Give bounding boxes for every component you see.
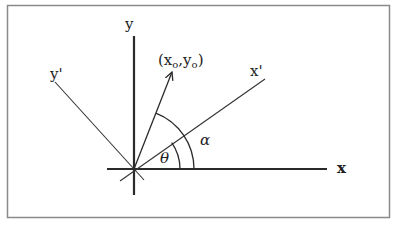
x-prime-axis-label: x' — [250, 62, 263, 80]
y-prime-axis-line — [55, 82, 144, 180]
x-axis-label: x — [337, 159, 347, 177]
theta-arc — [172, 143, 180, 169]
alpha-label: α — [200, 131, 210, 149]
theta-label: θ — [160, 149, 169, 167]
y-axis-label: y — [124, 15, 134, 33]
x-prime-axis-line — [120, 79, 265, 181]
y-prime-axis-label: y' — [49, 65, 63, 83]
frame-border — [8, 6, 390, 218]
point-label: (xo,yo) — [158, 51, 203, 70]
diagram-canvas: y x x' y' (xo,yo) θ α — [0, 0, 396, 225]
